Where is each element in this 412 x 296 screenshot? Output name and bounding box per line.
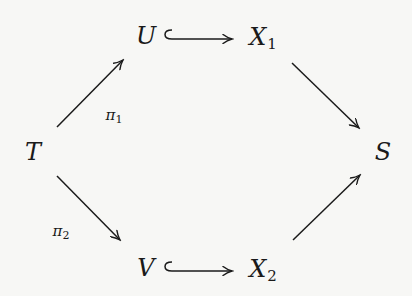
commutative-diagram: U X1 T S V X2 π1 π2 [0, 0, 412, 296]
label-pi1-subscript: 1 [115, 113, 122, 126]
node-x1-subscript: 1 [267, 35, 277, 53]
hook-arrow-u-to-x1 [165, 30, 232, 39]
node-u: U [136, 24, 156, 48]
node-t: T [25, 140, 41, 164]
node-t-symbol: T [25, 138, 41, 166]
label-pi2-symbol: π [53, 222, 63, 240]
label-pi2: π2 [53, 224, 70, 241]
node-x2: X2 [249, 257, 277, 284]
hook-arrow-v-to-x2 [165, 262, 232, 271]
node-s-symbol: S [375, 138, 391, 166]
diagram-arrows [0, 0, 412, 296]
label-pi1-symbol: π [106, 106, 116, 124]
node-s: S [375, 140, 391, 164]
node-x2-subscript: 2 [267, 267, 277, 285]
arrow-x1-to-s [292, 63, 359, 128]
arrow-x2-to-s [293, 175, 360, 240]
node-u-symbol: U [136, 22, 156, 50]
label-pi2-subscript: 2 [62, 229, 69, 242]
node-v: V [137, 256, 154, 280]
label-pi1: π1 [106, 108, 123, 125]
node-v-symbol: V [137, 254, 154, 282]
node-x1: X1 [249, 25, 277, 52]
node-x2-symbol: X [249, 255, 266, 283]
node-x1-symbol: X [249, 23, 266, 51]
